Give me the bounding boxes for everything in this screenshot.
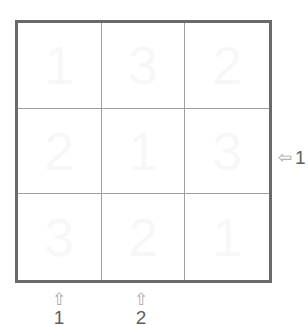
grid-cell-r2c1[interactable]: 2	[18, 109, 102, 195]
cell-value: 3	[128, 38, 158, 92]
arrow-left-outline-icon: ⇦	[278, 149, 292, 166]
cell-value: 3	[44, 210, 74, 264]
grid-cell-r1c1[interactable]: 1	[18, 23, 102, 109]
puzzle-grid[interactable]: 1 3 2 2 1 3 3 2 1	[15, 20, 272, 283]
arrow-up-outline-icon: ⇧	[52, 291, 66, 308]
clue-right-row-2[interactable]: ⇦ 1	[278, 145, 306, 169]
grid-cell-r3c2[interactable]: 2	[102, 194, 186, 280]
clue-label: 1	[295, 148, 306, 167]
clue-bottom-column-2[interactable]: ⇧ 2	[128, 291, 154, 325]
grid-cell-r2c3[interactable]: 3	[185, 109, 269, 195]
puzzle-canvas: 1 3 2 2 1 3 3 2 1 ⇧ 1	[0, 0, 308, 325]
cell-value: 3	[212, 124, 242, 178]
cell-value: 2	[44, 124, 74, 178]
clue-bottom-column-1[interactable]: ⇧ 1	[46, 291, 72, 325]
cell-value: 2	[128, 210, 158, 264]
cell-value: 2	[212, 38, 242, 92]
clue-label: 2	[136, 308, 147, 325]
grid-cell-r2c2[interactable]: 1	[102, 109, 186, 195]
cell-value: 1	[212, 210, 242, 264]
grid-cell-r3c3[interactable]: 1	[185, 194, 269, 280]
cell-value: 1	[44, 38, 74, 92]
grid-cell-r3c1[interactable]: 3	[18, 194, 102, 280]
arrow-up-outline-icon: ⇧	[134, 291, 148, 308]
grid-cell-r1c3[interactable]: 2	[185, 23, 269, 109]
clue-label: 1	[54, 308, 65, 325]
grid-cell-r1c2[interactable]: 3	[102, 23, 186, 109]
cell-value: 1	[128, 124, 158, 178]
